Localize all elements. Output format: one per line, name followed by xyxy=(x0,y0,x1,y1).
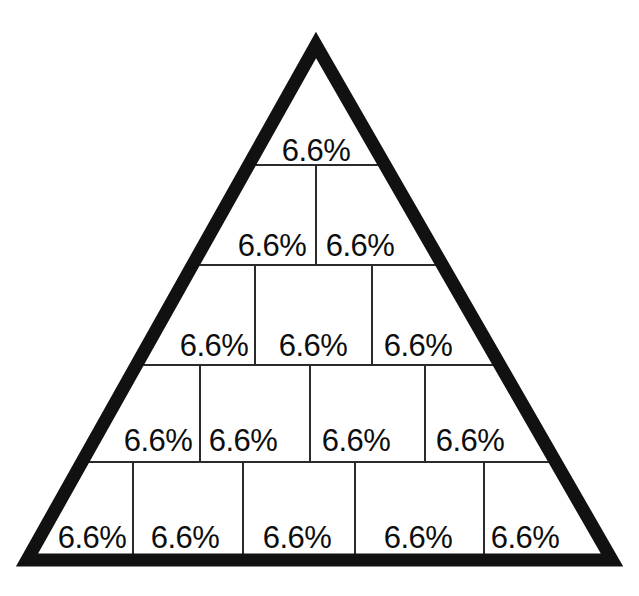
pyramid-cell-label: 6.6% xyxy=(151,522,220,553)
pyramid-cell-label: 6.6% xyxy=(209,425,278,456)
pyramid-cell-label: 6.6% xyxy=(238,230,307,261)
cell-label-layer: 6.6%6.6%6.6%6.6%6.6%6.6%6.6%6.6%6.6%6.6%… xyxy=(0,0,639,596)
pyramid-cell-label: 6.6% xyxy=(384,522,453,553)
pyramid-cell-label: 6.6% xyxy=(384,330,453,361)
pyramid-cell-label: 6.6% xyxy=(180,330,249,361)
pyramid-cell-label: 6.6% xyxy=(326,230,395,261)
pyramid-cell-label: 6.6% xyxy=(322,425,391,456)
pyramid-cell-label: 6.6% xyxy=(263,522,332,553)
pyramid-cell-label: 6.6% xyxy=(124,425,193,456)
pyramid-cell-label: 6.6% xyxy=(279,330,348,361)
pyramid-cell-label: 6.6% xyxy=(436,425,505,456)
pyramid-cell-label: 6.6% xyxy=(282,135,351,166)
pyramid-cell-label: 6.6% xyxy=(491,522,560,553)
pyramid-cell-label: 6.6% xyxy=(58,522,127,553)
pyramid-chart-figure: 6.6%6.6%6.6%6.6%6.6%6.6%6.6%6.6%6.6%6.6%… xyxy=(0,0,639,596)
